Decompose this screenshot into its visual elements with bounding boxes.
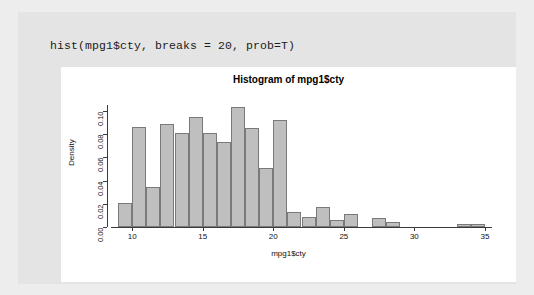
screenshot-root: hist(mpg1$cty, breaks = 20, prob=T) Hist… — [0, 0, 534, 295]
y-tick-label: 0.10 — [97, 111, 106, 126]
y-tick-label: 0.00 — [97, 228, 106, 243]
x-axis-line — [111, 227, 492, 228]
y-tick-label-wrap: 0.02 — [61, 200, 101, 208]
y-tick-label-wrap: 0.04 — [61, 177, 101, 185]
x-tick — [344, 227, 345, 231]
histogram-bar — [302, 217, 316, 227]
x-tick-label: 35 — [470, 232, 500, 241]
x-tick — [132, 227, 133, 231]
y-tick-label: 0.04 — [97, 181, 106, 196]
histogram-bar — [273, 120, 287, 227]
x-tick — [485, 227, 486, 231]
histogram-bar — [330, 220, 344, 227]
histogram-bar — [344, 214, 358, 227]
x-tick-label: 10 — [117, 232, 147, 241]
histogram-bar — [316, 207, 330, 227]
x-tick-label: 15 — [188, 232, 218, 241]
histogram-bar — [259, 168, 273, 227]
y-tick-label: 0.02 — [97, 204, 106, 219]
x-axis-title: mpg1$cty — [61, 249, 516, 258]
histogram-bar — [457, 224, 471, 227]
histogram-bar — [231, 107, 245, 227]
histogram-bar — [189, 117, 203, 227]
histogram-bar — [245, 128, 259, 227]
y-tick-label-wrap: 0.10 — [61, 107, 101, 115]
histogram-bar — [287, 212, 301, 227]
x-tick — [203, 227, 204, 231]
y-tick-label: 0.06 — [97, 158, 106, 173]
histogram-bar — [217, 142, 231, 227]
r-console-panel: hist(mpg1$cty, breaks = 20, prob=T) Hist… — [18, 12, 516, 284]
histogram-bar — [372, 218, 386, 227]
histogram-bar — [203, 133, 217, 227]
histogram-bar — [132, 127, 146, 227]
histogram-bar — [386, 222, 400, 227]
x-tick — [273, 227, 274, 231]
x-tick-label: 30 — [399, 232, 429, 241]
r-command-text: hist(mpg1$cty, breaks = 20, prob=T) — [50, 39, 295, 52]
histogram-bar — [160, 124, 174, 227]
x-tick-label: 25 — [329, 232, 359, 241]
histogram-bar — [118, 203, 132, 227]
histogram-bar — [146, 187, 160, 227]
y-tick-label-wrap: 0.00 — [61, 223, 101, 231]
histogram-plot: Density mpg1$cty 0.000.020.040.060.080.1… — [61, 67, 516, 282]
y-tick-label-wrap: 0.06 — [61, 153, 101, 161]
y-tick-label-wrap: 0.08 — [61, 130, 101, 138]
histogram-bar — [175, 133, 189, 227]
plot-device: Histogram of mpg1$cty Density mpg1$cty 0… — [61, 67, 516, 282]
x-tick — [414, 227, 415, 231]
y-tick-label: 0.08 — [97, 135, 106, 150]
y-axis-line — [107, 105, 108, 227]
x-tick-label: 20 — [258, 232, 288, 241]
histogram-bar — [471, 224, 485, 227]
